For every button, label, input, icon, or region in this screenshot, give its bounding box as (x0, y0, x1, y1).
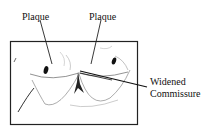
label-plaque-right: Plaque (89, 11, 116, 22)
label-commissure: Commissure (150, 88, 201, 99)
plaque-blob-right (111, 57, 117, 65)
plaque-blob-left (43, 66, 49, 75)
label-plaque-left: Plaque (22, 11, 49, 22)
diagram-canvas: Plaque Plaque Widened Commissure (0, 0, 205, 136)
label-widened: Widened (150, 76, 186, 87)
